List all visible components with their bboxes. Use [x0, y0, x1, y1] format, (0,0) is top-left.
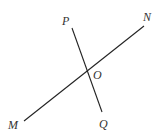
label-m: M: [7, 118, 19, 132]
label-p: P: [61, 14, 70, 28]
geometry-diagram: P N O M Q: [0, 0, 160, 135]
label-n: N: [142, 10, 152, 24]
label-o: O: [93, 68, 102, 82]
label-q: Q: [99, 117, 108, 131]
line-mn: [24, 26, 144, 121]
